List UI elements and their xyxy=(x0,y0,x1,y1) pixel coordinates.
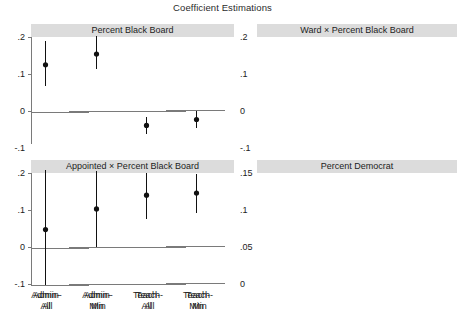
plot-area-2: .2.10-.1Admin-AllAdmin-MinTeach-AllTeach… xyxy=(14,160,226,295)
plot-canvas-0 xyxy=(14,24,226,144)
x-axis-tick-label: Admin-Min xyxy=(75,290,123,312)
plot-canvas-2 xyxy=(14,160,226,295)
x-axis-tick-label-line: Min xyxy=(75,301,123,312)
y-axis-tick-label: .2 xyxy=(240,32,248,42)
data-point-1 xyxy=(94,206,99,211)
x-axis-tick-label: Teach-Min xyxy=(176,290,224,312)
y-axis-tick-label: .1 xyxy=(14,205,25,215)
x-axis-tick-label: Teach-All xyxy=(126,290,174,312)
reference-line xyxy=(32,247,226,249)
y-axis-tick-label: 0 xyxy=(240,106,245,116)
data-point-3 xyxy=(194,190,199,195)
y-axis-tick-label: -.1 xyxy=(14,143,25,153)
plot-area-0: .2.10-.1 xyxy=(14,24,226,144)
y-axis-tick-label: .1 xyxy=(14,69,25,79)
y-axis-tick-label: -.1 xyxy=(14,279,25,289)
panel-title-3: Percent Democrat xyxy=(257,160,457,173)
reference-line xyxy=(32,111,226,113)
x-axis-tick-label-line: Teach- xyxy=(126,290,174,301)
y-axis-tick-label: 0 xyxy=(14,242,25,252)
data-point-0 xyxy=(43,62,48,67)
x-axis-tick-label-line: All xyxy=(24,301,72,312)
x-axis-tick-label-line: All xyxy=(126,301,174,312)
x-axis-tick-label-line: Admin- xyxy=(24,290,72,301)
x-axis-tick-label: Admin-All xyxy=(24,290,72,312)
y-axis-tick-label: .15 xyxy=(240,168,253,178)
y-axis-tick-label: .2 xyxy=(14,168,25,178)
y-axis-tick-label: .2 xyxy=(14,32,25,42)
y-axis-tick-label: 0 xyxy=(240,279,245,289)
y-axis-tick-label: -.1 xyxy=(240,143,251,153)
x-axis-line xyxy=(32,284,226,286)
y-axis-tick-label: .05 xyxy=(240,242,253,252)
figure-title: Coefficient Estimations xyxy=(0,2,445,13)
x-axis-tick-label-line: Admin- xyxy=(75,290,123,301)
data-point-3 xyxy=(194,117,199,122)
data-point-2 xyxy=(144,123,149,128)
panel-title-1: Ward × Percent Black Board xyxy=(257,24,457,37)
y-axis-tick-label: .1 xyxy=(240,69,248,79)
data-point-2 xyxy=(144,193,149,198)
x-axis-tick-label-line: Min xyxy=(176,301,224,312)
data-point-1 xyxy=(94,51,99,56)
y-axis-tick-label: 0 xyxy=(14,106,25,116)
x-axis-tick-label-line: Teach- xyxy=(176,290,224,301)
y-axis-tick-label: .1 xyxy=(240,205,248,215)
data-point-0 xyxy=(43,227,48,232)
panel-percent-black-board: Percent Black Board .2.10-.1 xyxy=(14,24,226,148)
